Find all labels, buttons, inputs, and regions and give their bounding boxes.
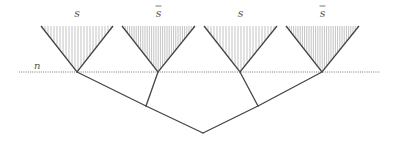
binary-tree-diagram: n ssss xyxy=(0,0,393,146)
cone-labels: ssss xyxy=(74,6,326,20)
cone-3-label: s xyxy=(238,7,244,20)
tree-edge xyxy=(146,106,203,133)
tree-edge xyxy=(240,72,258,106)
diagram-svg: n ssss xyxy=(0,0,393,146)
cone-hatching xyxy=(42,26,357,72)
cone-1-label: s xyxy=(74,7,80,20)
cone-3-edges xyxy=(204,26,277,72)
tree-edge xyxy=(77,72,146,106)
level-label: n xyxy=(34,60,40,71)
tree-edge xyxy=(146,72,158,106)
tree-edge xyxy=(258,72,322,106)
cone-2-label: s xyxy=(156,7,162,20)
cone-4-label: s xyxy=(320,7,326,20)
tree-edges xyxy=(77,72,322,133)
tree-edge xyxy=(203,106,258,133)
